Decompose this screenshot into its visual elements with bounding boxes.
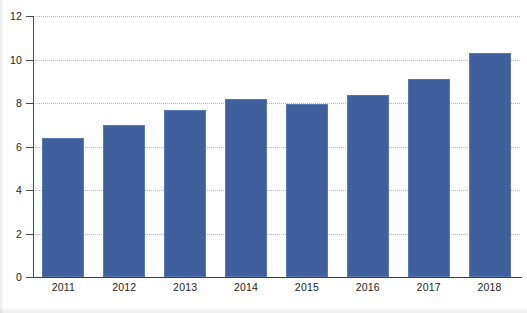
x-axis-line: [33, 277, 522, 278]
y-axis-tick-label: 6: [0, 141, 22, 153]
y-axis-tick-label: 10: [0, 54, 22, 66]
y-tick-10: [26, 60, 34, 61]
bar-2018: [469, 53, 511, 277]
x-axis-tick-label: 2011: [52, 281, 75, 293]
x-axis-labels: 20112012201320142015201620172018: [33, 281, 520, 303]
y-tick-4: [26, 190, 34, 191]
page-edge-shadow-bottom: [0, 307, 527, 313]
y-tick-0: [26, 277, 34, 278]
bar-2014: [225, 99, 267, 277]
x-axis-tick-label: 2013: [173, 281, 197, 293]
x-axis-tick-label: 2014: [234, 281, 258, 293]
bars-group: [33, 0, 520, 277]
bar-2015: [286, 104, 328, 277]
y-tick-8: [26, 103, 34, 104]
y-axis-tick-label: 8: [0, 97, 22, 109]
y-axis-tick-label: 0: [0, 271, 22, 283]
x-axis-tick-label: 2017: [417, 281, 441, 293]
x-axis-tick-label: 2015: [295, 281, 319, 293]
y-tick-6: [26, 147, 34, 148]
bar-2011: [42, 138, 84, 277]
page-edge-shadow-left: [0, 0, 4, 313]
y-axis-tick-label: 2: [0, 228, 22, 240]
bar-chart: 20112012201320142015201620172018 0246810…: [0, 0, 527, 313]
y-tick-2: [26, 234, 34, 235]
x-axis-tick-label: 2018: [477, 281, 501, 293]
bar-2016: [347, 95, 389, 277]
bar-2013: [164, 110, 206, 277]
y-axis-tick-label: 4: [0, 184, 22, 196]
x-axis-tick-label: 2012: [112, 281, 136, 293]
bar-2012: [103, 125, 145, 277]
bar-2017: [408, 79, 450, 277]
y-tick-12: [26, 16, 34, 17]
x-axis-tick-label: 2016: [356, 281, 380, 293]
y-axis-tick-label: 12: [0, 10, 22, 22]
